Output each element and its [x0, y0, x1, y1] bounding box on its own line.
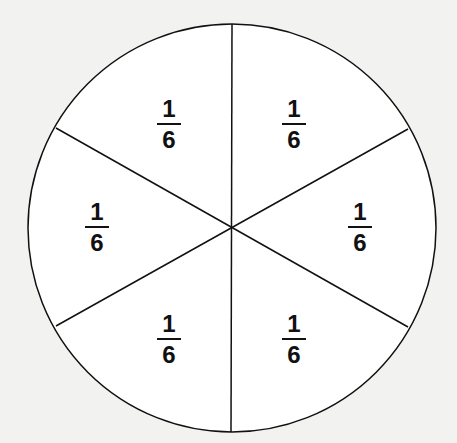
fraction-bar [282, 123, 306, 125]
fraction-bar [85, 226, 109, 228]
fraction-label: 16 [274, 96, 314, 153]
fraction-label: 16 [274, 311, 314, 368]
numerator: 1 [287, 95, 300, 122]
numerator: 1 [287, 310, 300, 337]
fraction-label: 16 [340, 199, 380, 256]
fraction-bar [157, 123, 181, 125]
numerator: 1 [162, 95, 175, 122]
pie-diagram [0, 0, 457, 443]
fraction-label: 16 [77, 199, 117, 256]
numerator: 1 [353, 198, 366, 225]
denominator: 6 [162, 126, 175, 153]
fraction-bar [157, 338, 181, 340]
fraction-label: 16 [149, 311, 189, 368]
fraction-bar [282, 338, 306, 340]
numerator: 1 [90, 198, 103, 225]
fraction-label: 16 [149, 96, 189, 153]
fraction-bar [348, 226, 372, 228]
denominator: 6 [353, 229, 366, 256]
numerator: 1 [162, 310, 175, 337]
denominator: 6 [162, 341, 175, 368]
denominator: 6 [287, 126, 300, 153]
denominator: 6 [287, 341, 300, 368]
denominator: 6 [90, 229, 103, 256]
